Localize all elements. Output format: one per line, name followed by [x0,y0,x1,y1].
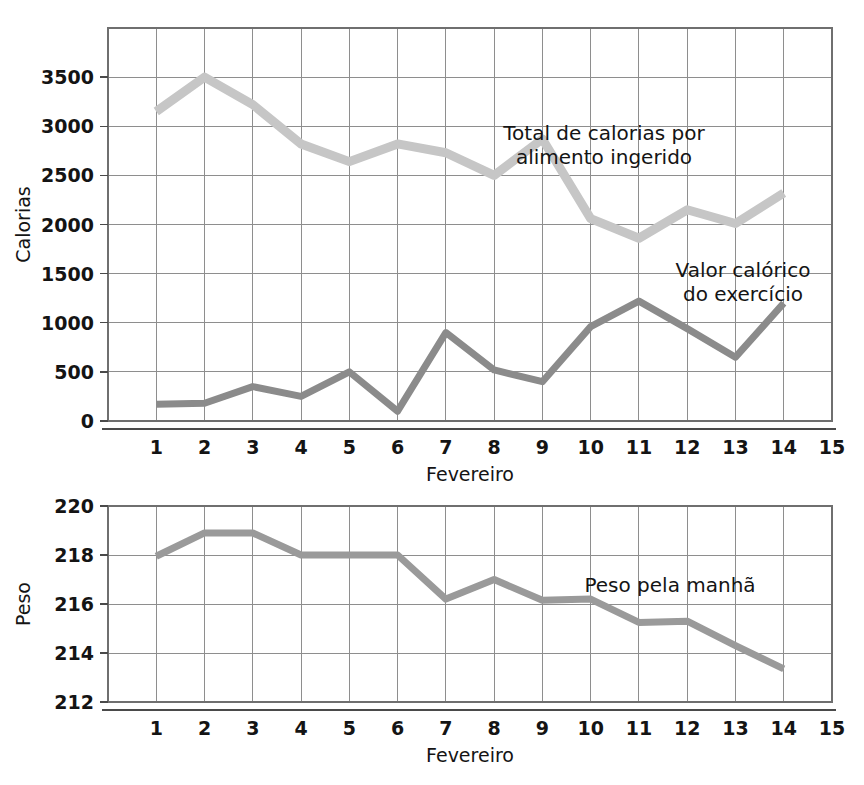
x-axis-title-peso: Fevereiro [426,744,514,766]
x-tick-label: 14 [771,436,797,458]
y-tick-label: 3500 [41,66,94,88]
x-tick-label: 7 [439,717,452,739]
x-tick-label: 9 [536,436,549,458]
annotation-calorias: Total de calorias poralimento ingerido [502,121,705,169]
x-tick-label: 5 [343,436,356,458]
x-tick-label: 10 [577,717,603,739]
x-tick-label: 2 [198,717,211,739]
y-tick-label: 214 [54,642,94,664]
y-tick-label: 3000 [41,115,94,137]
charts-canvas: 0500100015002000250030003500123456789101… [0,0,864,785]
x-tick-label: 8 [488,717,501,739]
x-tick-label: 12 [674,436,700,458]
x-tick-label: 2 [198,436,211,458]
x-tick-label: 1 [150,717,163,739]
chart-figure: 0500100015002000250030003500123456789101… [0,0,864,785]
annotation-line: Peso pela manhã [584,573,755,597]
x-tick-label: 6 [391,717,404,739]
y-tick-label: 212 [54,691,94,713]
chart-peso: 212214216218220123456789101112131415Feve… [12,495,845,766]
y-tick-label: 1500 [41,263,94,285]
x-tick-label: 12 [674,717,700,739]
x-tick-label: 6 [391,436,404,458]
y-axis-title-calorias: Calorias [12,186,34,262]
annotation-line: Valor calórico [676,258,811,282]
annotation-line: do exercício [683,282,803,306]
y-tick-label: 0 [81,410,94,432]
y-tick-label: 218 [54,544,94,566]
annotation-peso: Peso pela manhã [584,573,755,597]
annotation-exercicio: Valor calóricodo exercício [676,258,811,306]
x-axis-title-calorias: Fevereiro [426,463,514,485]
chart-calorias: 0500100015002000250030003500123456789101… [12,28,845,485]
x-tick-label: 15 [819,717,845,739]
y-tick-label: 216 [54,593,94,615]
series-line-peso [156,533,783,669]
y-tick-label: 1000 [41,312,94,334]
x-tick-label: 9 [536,717,549,739]
annotation-line: alimento ingerido [516,145,692,169]
x-tick-label: 13 [722,436,748,458]
x-tick-label: 3 [246,436,259,458]
series-line-calorias [156,301,783,411]
x-tick-label: 14 [771,717,797,739]
x-tick-label: 11 [626,717,652,739]
x-tick-label: 5 [343,717,356,739]
x-tick-label: 10 [577,436,603,458]
x-tick-label: 15 [819,436,845,458]
x-tick-label: 8 [488,436,501,458]
x-tick-label: 4 [294,717,307,739]
annotation-line: Total de calorias por [502,121,705,145]
x-tick-label: 7 [439,436,452,458]
y-tick-label: 2000 [41,214,94,236]
x-tick-label: 4 [294,436,307,458]
y-tick-label: 2500 [41,164,94,186]
x-tick-label: 13 [722,717,748,739]
y-tick-label: 500 [54,361,94,383]
x-tick-label: 11 [626,436,652,458]
x-tick-label: 1 [150,436,163,458]
x-tick-label: 3 [246,717,259,739]
y-tick-label: 220 [54,495,94,517]
y-axis-title-peso: Peso [12,582,34,626]
